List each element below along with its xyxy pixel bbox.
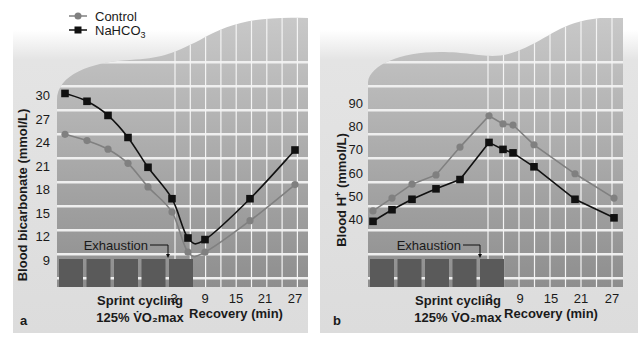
data-point-nahco3	[456, 176, 464, 184]
data-point-nahco3	[610, 214, 618, 222]
data-point-nahco3	[499, 146, 507, 154]
data-point-control	[610, 195, 617, 202]
data-point-nahco3	[184, 234, 192, 242]
data-point-control	[61, 131, 68, 138]
data-point-control	[388, 195, 395, 202]
x-ticks-b: 39152127	[485, 291, 619, 306]
sprint-bout	[169, 259, 193, 287]
data-point-nahco3	[432, 185, 440, 193]
y-tick-label: 27	[36, 112, 50, 127]
x-axis-label-a: Recovery (min)	[189, 306, 283, 321]
data-point-nahco3	[388, 206, 396, 214]
x-tick-label: 27	[605, 291, 619, 306]
y-tick-label: 12	[36, 229, 50, 244]
data-point-control	[104, 146, 111, 153]
sprint-bout	[59, 259, 83, 287]
sprint-bout	[425, 259, 449, 287]
y-tick-label: 21	[36, 159, 50, 174]
x-tick-label: 21	[574, 291, 588, 306]
data-point-control	[168, 208, 175, 215]
sprint-bars-b	[370, 259, 504, 287]
data-point-nahco3	[124, 134, 132, 142]
legend: Control NaHCO3	[69, 9, 146, 40]
x-axis-label-b: Recovery (min)	[504, 306, 598, 321]
data-point-nahco3	[485, 139, 493, 147]
y-tick-label: 70	[349, 142, 363, 157]
data-point-nahco3	[408, 195, 416, 203]
data-point-control	[456, 143, 463, 150]
sprint-bout	[114, 259, 138, 287]
y-tick-label: 60	[349, 166, 363, 181]
legend-label-nahco3: NaHCO3	[95, 23, 146, 40]
legend-label-control: Control	[95, 9, 137, 24]
sprint-bout	[480, 259, 504, 287]
data-point-control	[246, 217, 253, 224]
data-point-nahco3	[369, 218, 377, 226]
data-point-nahco3	[144, 163, 152, 171]
sprint-bout	[87, 259, 111, 287]
x-ticks-a: 39152127	[170, 291, 302, 306]
data-point-control	[408, 181, 415, 188]
intensity-label-b: 125% V̇O₂max	[414, 310, 502, 325]
y-tick-label: 15	[36, 206, 50, 221]
sprint-bout	[453, 259, 477, 287]
y-tick-label: 50	[349, 189, 363, 204]
data-point-control	[530, 141, 537, 148]
x-tick-label: 21	[258, 291, 272, 306]
x-tick-label: 15	[544, 291, 558, 306]
legend-item-control: Control	[69, 9, 137, 24]
y-axis-label-a: Blood bicarbonate (mmol/L)	[15, 109, 30, 282]
data-point-nahco3	[83, 97, 91, 105]
y-tick-label: 18	[36, 182, 50, 197]
panel-letter-a: a	[20, 313, 28, 328]
data-point-control	[144, 183, 151, 190]
data-point-nahco3	[291, 146, 299, 154]
data-point-control	[124, 160, 131, 167]
y-ticks-a: 302724211815129	[36, 88, 50, 268]
y-tick-label: 40	[349, 212, 363, 227]
panel-letter-b: b	[333, 313, 341, 328]
y-tick-label: 9	[43, 253, 50, 268]
intensity-label-a: 125% V̇O₂max	[96, 310, 184, 325]
y-tick-label: 30	[36, 88, 50, 103]
x-tick-label: 9	[516, 291, 523, 306]
x-tick-label: 9	[201, 291, 208, 306]
y-tick-label: 90	[349, 96, 363, 111]
y-tick-label: 80	[349, 119, 363, 134]
data-point-control	[509, 121, 516, 128]
y-axis-label-b: Blood H+ (mmol/L)	[333, 133, 349, 247]
data-point-nahco3	[246, 195, 254, 203]
data-point-control	[499, 120, 506, 127]
data-point-control	[83, 137, 90, 144]
y-ticks-b: 908070605040	[349, 96, 363, 227]
x-tick-label: 27	[288, 291, 302, 306]
data-point-nahco3	[201, 236, 209, 244]
data-point-control	[571, 170, 578, 177]
sprint-bout	[142, 259, 166, 287]
data-point-nahco3	[168, 195, 176, 203]
sprint-label-b: Sprint cycling	[415, 293, 501, 308]
y-tick-label: 24	[36, 135, 50, 150]
sprint-bars-a	[59, 259, 193, 287]
data-point-nahco3	[509, 149, 517, 157]
data-point-control	[201, 249, 208, 256]
data-point-nahco3	[61, 90, 69, 98]
sprint-bout	[398, 259, 422, 287]
data-point-control	[485, 112, 492, 119]
data-point-nahco3	[530, 163, 538, 171]
data-point-control	[369, 207, 376, 214]
data-point-nahco3	[104, 112, 112, 120]
x-tick-label: 15	[229, 291, 243, 306]
exhaustion-label-a: Exhaustion	[84, 238, 148, 253]
exhaustion-label-b: Exhaustion	[397, 238, 461, 253]
sprint-bout	[370, 259, 394, 287]
legend-item-nahco3: NaHCO3	[69, 23, 146, 40]
sprint-label-a: Sprint cycling	[97, 293, 183, 308]
data-point-control	[432, 171, 439, 178]
data-point-nahco3	[571, 195, 579, 203]
data-point-control	[184, 249, 191, 256]
figure-canvas: Control NaHCO3 Blood bicarbonate (mmol/L…	[0, 0, 643, 342]
data-point-control	[291, 181, 298, 188]
